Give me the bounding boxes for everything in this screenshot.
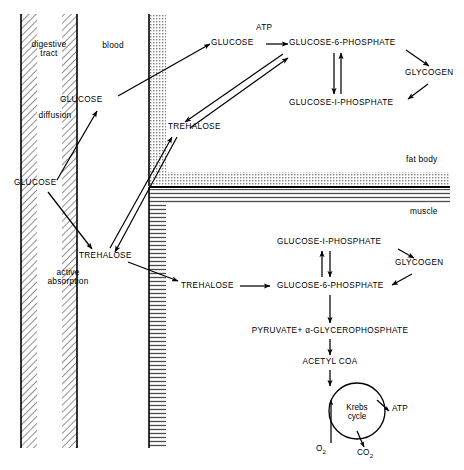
metabolite-gut-glucose: GLUCOSE: [14, 179, 57, 188]
krebs-line2: cycle: [346, 412, 367, 421]
metabolite-fat-trehalose: TREHALOSE: [168, 123, 221, 132]
oxygen-subscript: 2: [323, 448, 327, 455]
label-krebs-cycle: Krebs cycle: [346, 403, 367, 422]
metabolite-muscle-glycogen: GLYCOGEN: [395, 259, 444, 268]
digestive-tract-wall-right: [62, 14, 77, 448]
label-diffusion: diffusion: [39, 111, 72, 120]
krebs-line1: Krebs: [346, 403, 367, 412]
metabolite-fat-glycogen: GLYCOGEN: [405, 69, 454, 78]
label-digestive-tract: digestive tract: [32, 40, 67, 58]
metabolite-blood-glucose: GLUCOSE: [60, 96, 103, 105]
digestive-tract-wall-left: [21, 14, 37, 448]
metabolite-muscle-trehalose: TREHALOSE: [181, 282, 234, 291]
label-active-absorption: active absorption: [47, 268, 88, 286]
metabolite-acetyl-coa: ACETYL COA: [302, 358, 357, 367]
digestive-tract-line2: tract: [32, 49, 67, 58]
label-fat-body: fat body: [406, 155, 437, 164]
metabolite-fat-glucose-6-phosphate: GLUCOSE-6-PHOSPHATE: [289, 39, 396, 48]
metabolite-fat-glucose-1-phosphate: GLUCOSE-I-PHOSPHATE: [289, 99, 393, 108]
diagram-canvas: [0, 0, 464, 470]
metabolite-fat-glucose: GLUCOSE: [211, 39, 254, 48]
metabolite-muscle-glucose-6-phosphate: GLUCOSE-6-PHOSPHATE: [277, 282, 384, 291]
arrow-fat-glycogen-to-g1p: [408, 84, 428, 99]
arrow-fat-g6p-to-trehalose: [185, 54, 283, 122]
label-oxygen: O2: [316, 445, 326, 455]
active-absorption-line2: absorption: [47, 277, 88, 286]
carbon-dioxide-subscript: 2: [370, 452, 374, 459]
label-muscle: muscle: [410, 207, 438, 216]
arrow-muscle-g1p-to-glycogen: [398, 249, 414, 258]
label-carbon-dioxide: CO2: [357, 449, 373, 459]
metabolite-muscle-glucose-1-phosphate: GLUCOSE-I-PHOSPHATE: [277, 238, 381, 247]
arrow-muscle-glycogen-to-g6p: [392, 274, 412, 285]
label-krebs-atp: ATP: [392, 405, 408, 414]
oxygen-symbol: O: [316, 444, 323, 453]
carbon-dioxide-symbol: CO: [357, 448, 370, 457]
metabolism-diagram: digestive tract blood fat body muscle di…: [0, 0, 464, 470]
label-blood: blood: [102, 41, 124, 50]
metabolite-fat-atp: ATP: [256, 24, 272, 33]
metabolite-blood-trehalose: TREHALOSE: [79, 252, 132, 261]
arrow-fat-g6p-to-glycogen: [406, 50, 429, 66]
metabolite-pyruvate-glycerophosphate: PYRUVATE+ α-GLYCEROPHOSPHATE: [252, 327, 409, 336]
arrow-fat-trehalose-to-g6p: [190, 58, 288, 128]
